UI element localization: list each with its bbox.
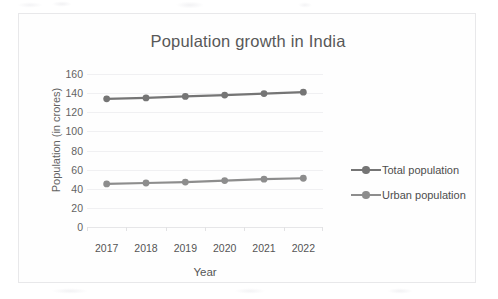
legend-item-label: Urban population bbox=[381, 189, 466, 201]
data-point-marker bbox=[221, 92, 228, 99]
data-series bbox=[103, 89, 306, 102]
series-line bbox=[107, 92, 304, 99]
x-axis-tick bbox=[322, 227, 323, 231]
x-axis-tick bbox=[205, 227, 206, 231]
legend-marker-icon bbox=[351, 165, 381, 175]
x-axis-tick-label: 2022 bbox=[292, 242, 315, 254]
data-point-marker bbox=[103, 181, 110, 188]
data-series bbox=[103, 175, 306, 188]
data-point-marker bbox=[103, 95, 110, 102]
y-axis-tick-label: 160 bbox=[65, 68, 83, 80]
y-axis-tick-label: 60 bbox=[71, 164, 83, 176]
data-point-marker bbox=[143, 95, 150, 102]
data-point-marker bbox=[300, 89, 307, 96]
scan-artifact-top bbox=[0, 0, 498, 14]
x-axis-tick bbox=[126, 227, 127, 231]
y-axis-tick-label: 20 bbox=[71, 202, 83, 214]
data-point-marker bbox=[221, 177, 228, 184]
scan-artifact-bottom bbox=[0, 285, 498, 299]
data-point-marker bbox=[182, 179, 189, 186]
data-point-marker bbox=[261, 176, 268, 183]
x-axis-tick-labels: 201720182019202020212022 bbox=[87, 242, 323, 258]
y-axis-tick-label: 0 bbox=[77, 221, 83, 233]
legend-item-label: Total population bbox=[381, 164, 459, 176]
data-point-marker bbox=[261, 90, 268, 97]
y-axis-tick-label: 120 bbox=[65, 106, 83, 118]
data-point-marker bbox=[300, 175, 307, 182]
chart-title: Population growth in India bbox=[19, 32, 477, 51]
plot-area bbox=[87, 74, 323, 227]
x-axis-title: Year bbox=[87, 266, 323, 278]
x-axis-tick-label: 2018 bbox=[134, 242, 157, 254]
series-line bbox=[107, 178, 304, 184]
legend-item[interactable]: Urban population bbox=[351, 182, 481, 207]
x-axis-tick-label: 2017 bbox=[95, 242, 118, 254]
chart-frame: Population growth in India Population (i… bbox=[18, 13, 476, 283]
legend-marker-icon bbox=[351, 190, 381, 200]
y-axis-tick-labels: 020406080100120140160 bbox=[47, 66, 83, 235]
y-axis-tick-label: 40 bbox=[71, 183, 83, 195]
series-plot bbox=[87, 74, 323, 227]
data-point-marker bbox=[182, 93, 189, 100]
y-axis-tick-label: 100 bbox=[65, 125, 83, 137]
x-axis-tick bbox=[166, 227, 167, 231]
x-axis-tick-label: 2019 bbox=[174, 242, 197, 254]
y-axis-tick-label: 80 bbox=[71, 145, 83, 157]
x-axis-tick-label: 2020 bbox=[213, 242, 236, 254]
x-axis-tick-label: 2021 bbox=[252, 242, 275, 254]
x-axis-tick bbox=[284, 227, 285, 231]
legend-item[interactable]: Total population bbox=[351, 157, 481, 182]
x-axis-tick bbox=[87, 227, 88, 231]
chart-legend: Total populationUrban population bbox=[351, 157, 481, 207]
x-axis-tick bbox=[244, 227, 245, 231]
data-point-marker bbox=[143, 180, 150, 187]
y-axis-tick-label: 140 bbox=[65, 87, 83, 99]
